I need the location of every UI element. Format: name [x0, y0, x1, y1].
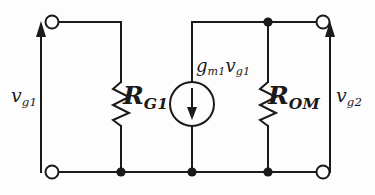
circuit-diagram-figure: vg1 vg2 RG1 ROM gm1vg1 — [0, 0, 375, 195]
label-gain-subscript: m1 — [208, 65, 226, 78]
terminal-top-left — [46, 16, 59, 29]
label-vg2-symbol: v — [336, 84, 347, 106]
label-current-source: gm1vg1 — [196, 57, 250, 75]
label-vg1-symbol: v — [11, 84, 22, 106]
wire-top-left — [58, 22, 121, 82]
junction-dot-rom-top — [263, 17, 272, 26]
terminal-bottom-left — [46, 166, 59, 179]
vg1-arrowhead — [36, 21, 46, 37]
label-rg1-subscript: G1 — [144, 94, 168, 113]
junction-dot-source-bottom — [187, 167, 196, 176]
label-rg1-symbol: R — [123, 81, 144, 110]
junction-dot-rom-bottom — [263, 167, 272, 176]
label-rom: ROM — [268, 83, 320, 108]
label-vg2: vg2 — [336, 86, 362, 105]
label-rom-subscript: OM — [289, 94, 320, 113]
junction-dot-rg1-bottom — [116, 167, 125, 176]
label-gain-symbol: g — [196, 55, 208, 76]
label-control-symbol: v — [226, 55, 236, 76]
label-rg1: RG1 — [123, 83, 168, 108]
terminal-top-right — [317, 16, 330, 29]
label-rom-symbol: R — [268, 81, 289, 110]
label-control-subscript: g1 — [236, 65, 251, 78]
terminal-bottom-right — [317, 166, 330, 179]
label-vg1: vg1 — [11, 86, 37, 105]
label-vg1-subscript: g1 — [22, 95, 37, 109]
label-vg2-subscript: g2 — [347, 95, 362, 109]
current-source-arrowhead — [187, 107, 197, 120]
